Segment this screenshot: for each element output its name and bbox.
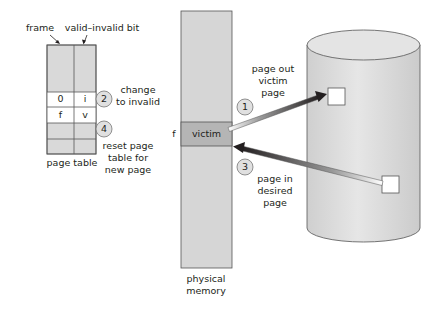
frame-column-label: frame [18,22,62,34]
frame-f-label: f [168,128,180,140]
step-2-text: change to invalid [112,84,164,108]
physical-memory-label: physical memory [176,273,236,297]
victim-frame-label: victim [181,128,232,140]
backing-store-disk [307,30,420,242]
step-number-4: 4 [96,123,112,135]
column-pointer-arrows [50,35,87,45]
disk-desired-page-slot [382,176,399,193]
page-table-bit-cell-v: v [74,109,96,121]
page-table-frame-cell-f: f [47,109,74,121]
valid-invalid-bit-label: valid–invalid bit [60,22,144,34]
disk-victim-page-slot [328,88,345,105]
step-4-text: reset page table for new page [98,140,158,176]
page-table-frame-cell-0: 0 [47,93,74,105]
step-1-text: page out victim page [248,63,298,99]
step-3-text: page in desired page [250,173,300,209]
step-number-2: 2 [96,93,112,105]
step-number-1: 1 [237,101,253,113]
page-table-label: page table [38,157,106,169]
page-table-bit-cell-i: i [74,93,96,105]
step-number-3: 3 [237,161,253,173]
